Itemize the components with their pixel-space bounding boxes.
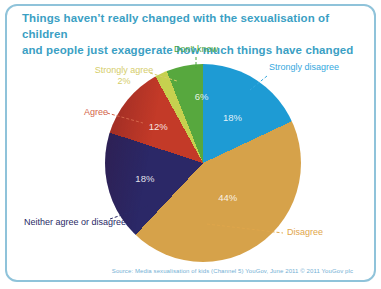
legend-label-strongly-agree-pct: 2% xyxy=(92,76,156,87)
chart-title-line1: Things haven’t really changed with the s… xyxy=(22,10,367,42)
slice-value-label: 18% xyxy=(135,172,154,183)
source-citation: Source: Media sexualisation of kids (Cha… xyxy=(0,268,353,274)
legend-label-strongly-agree: Strongly agree 2% xyxy=(92,65,156,87)
slice-value-label: 6% xyxy=(195,91,209,102)
slice-value-label: 18% xyxy=(223,111,242,122)
legend-label-agree: Agree xyxy=(84,107,108,118)
legend-label-disagree: Disagree xyxy=(287,227,323,238)
pie-chart: 18%44%18%12%6% xyxy=(105,64,301,262)
slice-value-label: 12% xyxy=(149,121,168,132)
chart-figure: Things haven’t really changed with the s… xyxy=(0,0,381,289)
legend-label-dont-know: Don't know xyxy=(160,44,232,55)
slice-value-label: 44% xyxy=(218,191,237,202)
legend-label-strongly-disagree: Strongly disagree xyxy=(269,62,339,73)
legend-label-strongly-agree-text: Strongly agree xyxy=(92,65,156,76)
legend-label-neither: Neither agree or disagree xyxy=(24,217,126,228)
